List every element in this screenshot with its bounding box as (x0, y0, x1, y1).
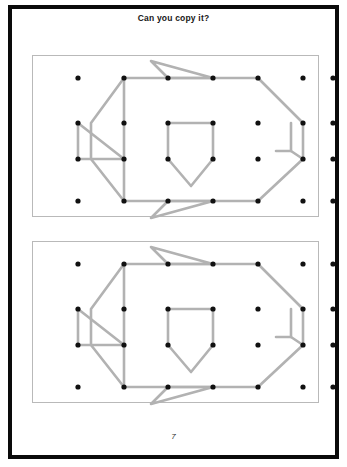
copy-board-bottom-spike-triangle (151, 387, 213, 404)
copy-board-peg-r1c2[interactable] (121, 261, 126, 266)
geoboard-panel-model[interactable] (32, 55, 319, 217)
copy-board-peg-r1c7[interactable] (330, 261, 335, 266)
copy-board-peg-r1c6[interactable] (300, 261, 305, 266)
model-board-peg-r4c4[interactable] (210, 198, 215, 203)
copy-board-peg-r2c1[interactable] (75, 306, 80, 311)
model-board-peg-r2c4[interactable] (210, 120, 215, 125)
copy-board-peg-r1c3[interactable] (165, 261, 170, 266)
model-board-bottom-spike-triangle (151, 201, 213, 218)
model-board-peg-r4c7[interactable] (330, 198, 335, 203)
copy-board-peg-r4c3[interactable] (165, 384, 170, 389)
copy-board-top-spike-triangle (151, 247, 213, 264)
model-board-peg-r4c6[interactable] (300, 198, 305, 203)
copy-board-right-hook (276, 337, 303, 345)
copy-board-peg-r2c5[interactable] (255, 306, 260, 311)
model-board-peg-r2c6[interactable] (300, 120, 305, 125)
model-board-peg-r3c4[interactable] (210, 156, 215, 161)
model-board-peg-r3c2[interactable] (121, 156, 126, 161)
model-board-peg-r1c6[interactable] (300, 75, 305, 80)
copy-board-peg-r3c5[interactable] (255, 342, 260, 347)
copy-board-peg-r4c7[interactable] (330, 384, 335, 389)
model-board-peg-r2c3[interactable] (165, 120, 170, 125)
copy-board-peg-r3c6[interactable] (300, 342, 305, 347)
model-board-peg-r4c1[interactable] (75, 198, 80, 203)
model-board-peg-r1c5[interactable] (255, 75, 260, 80)
copy-board-peg-r4c2[interactable] (121, 384, 126, 389)
copy-board-peg-r3c7[interactable] (330, 342, 335, 347)
copy-board-peg-r2c3[interactable] (165, 306, 170, 311)
model-board-peg-r2c7[interactable] (330, 120, 335, 125)
copy-board-peg-r4c4[interactable] (210, 384, 215, 389)
model-board-peg-r2c1[interactable] (75, 120, 80, 125)
model-board-peg-r1c4[interactable] (210, 75, 215, 80)
copy-board-peg-r2c4[interactable] (210, 306, 215, 311)
copy-board-peg-r3c4[interactable] (210, 342, 215, 347)
copy-board-tail-triangle (78, 309, 124, 345)
geoboard-panel-copy[interactable] (32, 241, 319, 403)
model-board-peg-r3c3[interactable] (165, 156, 170, 161)
copy-board-peg-r2c7[interactable] (330, 306, 335, 311)
model-board-peg-r4c3[interactable] (165, 198, 170, 203)
model-board-peg-r1c7[interactable] (330, 75, 335, 80)
copy-board-shield-shape (168, 309, 213, 372)
model-board-top-spike-triangle (151, 61, 213, 78)
copy-board-peg-r4c1[interactable] (75, 384, 80, 389)
copy-board-peg-r4c6[interactable] (300, 384, 305, 389)
copy-board-peg-r1c1[interactable] (75, 261, 80, 266)
page-number: 7 (0, 432, 347, 441)
model-board-peg-r1c3[interactable] (165, 75, 170, 80)
model-board-peg-r1c2[interactable] (121, 75, 126, 80)
copy-board-peg-r1c5[interactable] (255, 261, 260, 266)
copy-board-peg-r2c6[interactable] (300, 306, 305, 311)
model-board-right-hook (276, 151, 303, 159)
copy-board-peg-r4c5[interactable] (255, 384, 260, 389)
model-board-shield-shape (168, 123, 213, 186)
model-board-peg-r3c1[interactable] (75, 156, 80, 161)
model-board-bands (33, 56, 320, 218)
model-board-tail-triangle (78, 123, 124, 159)
model-board-peg-r2c5[interactable] (255, 120, 260, 125)
model-board-peg-r3c5[interactable] (255, 156, 260, 161)
copy-board-peg-r3c3[interactable] (165, 342, 170, 347)
model-board-peg-r3c7[interactable] (330, 156, 335, 161)
model-board-peg-r4c5[interactable] (255, 198, 260, 203)
page-title: Can you copy it? (0, 13, 347, 23)
model-board-peg-r1c1[interactable] (75, 75, 80, 80)
copy-board-peg-r1c4[interactable] (210, 261, 215, 266)
worksheet-page: Can you copy it? 7 (0, 0, 347, 467)
copy-board-bands (33, 242, 320, 404)
model-board-peg-r3c6[interactable] (300, 156, 305, 161)
copy-board-peg-r3c1[interactable] (75, 342, 80, 347)
copy-board-peg-r2c2[interactable] (121, 306, 126, 311)
model-board-peg-r2c2[interactable] (121, 120, 126, 125)
copy-board-peg-r3c2[interactable] (121, 342, 126, 347)
model-board-peg-r4c2[interactable] (121, 198, 126, 203)
